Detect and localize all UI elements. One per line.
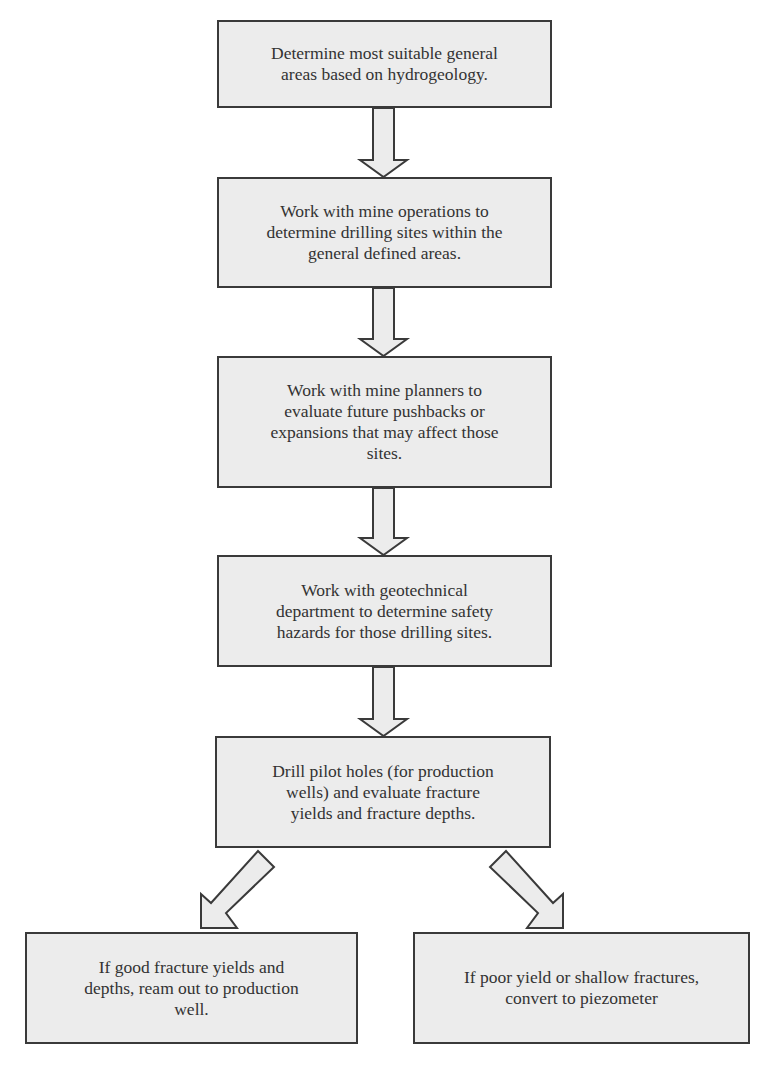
step-box-mine-planners: Work with mine planners to evaluate futu… (217, 356, 552, 488)
step-box-pilot-holes: Drill pilot holes (for production wells)… (215, 736, 551, 848)
step-text-line: areas based on hydrogeology. (271, 64, 498, 85)
step-text-line: Work with geotechnical (276, 580, 493, 601)
outcome-box-piezometer: If poor yield or shallow fractures, conv… (413, 932, 750, 1044)
outcome-text-line: convert to piezometer (464, 988, 699, 1009)
step-text-line: Determine most suitable general (271, 43, 498, 64)
step-text-line: general defined areas. (266, 243, 502, 264)
arrow-down-icon (360, 667, 407, 736)
step-text-line: expansions that may affect those (270, 422, 498, 443)
step-text-line: yields and fracture depths. (272, 803, 494, 824)
outcome-text-line: If poor yield or shallow fractures, (464, 967, 699, 988)
step-text-line: Work with mine planners to (270, 380, 498, 401)
outcome-text-line: If good fracture yields and (84, 957, 298, 978)
step-text-line: evaluate future pushbacks or (270, 401, 498, 422)
step-text-line: sites. (270, 443, 498, 464)
arrow-down-left-icon (201, 851, 274, 928)
step-box-geotechnical: Work with geotechnical department to det… (217, 555, 552, 667)
arrow-down-icon (360, 488, 407, 555)
step-text-line: determine drilling sites within the (266, 222, 502, 243)
outcome-text-line: well. (84, 999, 298, 1020)
step-text-line: wells) and evaluate fracture (272, 782, 494, 803)
outcome-box-production-well: If good fracture yields and depths, ream… (25, 932, 358, 1044)
outcome-text-line: depths, ream out to production (84, 978, 298, 999)
step-box-mine-operations: Work with mine operations to determine d… (217, 177, 552, 288)
step-text-line: Work with mine operations to (266, 201, 502, 222)
step-text-line: department to determine safety (276, 601, 493, 622)
step-text-line: hazards for those drilling sites. (276, 622, 493, 643)
step-box-hydrogeology: Determine most suitable general areas ba… (217, 20, 552, 108)
arrow-down-icon (360, 108, 407, 177)
arrow-down-right-icon (490, 851, 563, 928)
arrow-down-icon (360, 288, 407, 356)
step-text-line: Drill pilot holes (for production (272, 761, 494, 782)
connector-arrows (0, 0, 775, 1069)
